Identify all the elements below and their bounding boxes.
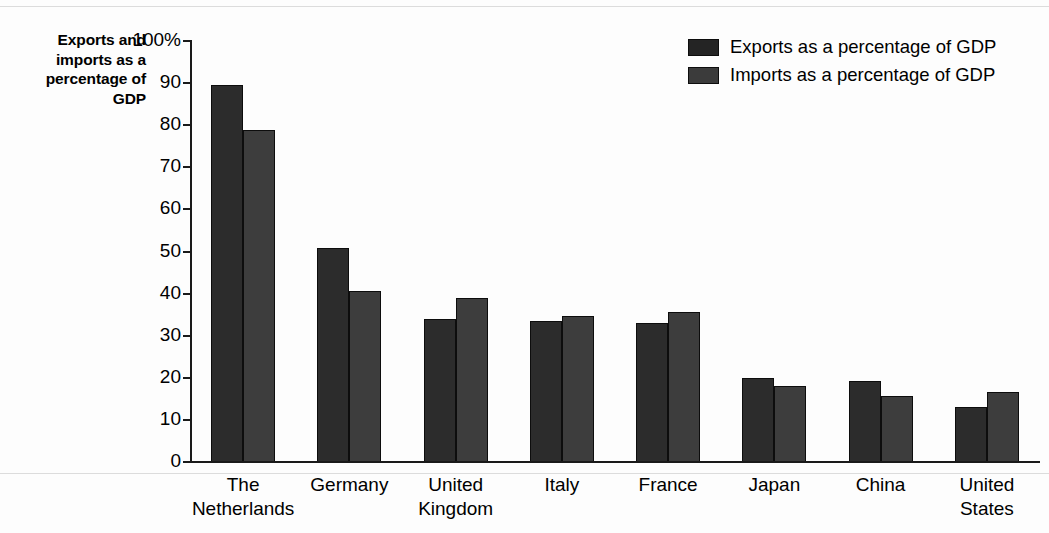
bar-group-inner [934, 40, 1040, 461]
bar-imports[interactable] [349, 291, 381, 461]
bar-imports[interactable] [243, 130, 275, 461]
y-tick-label: 40 [160, 282, 181, 304]
bar-exports[interactable] [742, 378, 774, 461]
bar-imports[interactable] [881, 396, 913, 461]
x-axis-category-label-line: United [403, 473, 509, 497]
x-axis-category-label: Germany [296, 473, 402, 497]
bar-group-inner [403, 40, 509, 461]
bar-group [190, 40, 296, 461]
bar-group-inner [190, 40, 296, 461]
bar-imports[interactable] [456, 298, 488, 461]
bar-group-inner [615, 40, 721, 461]
x-axis-category-label-line: Japan [721, 473, 827, 497]
y-tick-label: 100% [132, 29, 181, 51]
y-tick-label: 60 [160, 197, 181, 219]
bar-group-inner [296, 40, 402, 461]
bar-imports[interactable] [774, 386, 806, 461]
bar-exports[interactable] [211, 85, 243, 461]
bar-group [509, 40, 615, 461]
bar-group-inner [509, 40, 615, 461]
y-tick-label: 20 [160, 366, 181, 388]
bar-exports[interactable] [317, 248, 349, 461]
bar-imports[interactable] [987, 392, 1019, 461]
bar-imports[interactable] [668, 312, 700, 461]
x-axis-category-label-line: United [934, 473, 1040, 497]
bar-group [403, 40, 509, 461]
y-axis-title-line: GDP [18, 89, 146, 109]
bar-group [615, 40, 721, 461]
x-axis-category-label-line: Italy [509, 473, 615, 497]
x-axis-category-label: France [615, 473, 721, 497]
y-axis-title-line: percentage of [18, 69, 146, 89]
x-axis-category-label-line: The [190, 473, 296, 497]
x-axis-category-label: UnitedKingdom [403, 473, 509, 521]
bar-exports[interactable] [636, 323, 668, 461]
y-tick-label: 50 [160, 240, 181, 262]
bar-group [721, 40, 827, 461]
bar-exports[interactable] [424, 319, 456, 461]
bar-group-inner [721, 40, 827, 461]
y-tick-label: 90 [160, 71, 181, 93]
x-axis-category-label-line: Netherlands [190, 497, 296, 521]
bar-exports[interactable] [955, 407, 987, 461]
bar-group [296, 40, 402, 461]
x-axis-category-label: Japan [721, 473, 827, 497]
y-axis-title-line: Exports and [18, 30, 146, 50]
bar-exports[interactable] [530, 321, 562, 461]
y-tick-label: 30 [160, 324, 181, 346]
bar-group [934, 40, 1040, 461]
x-axis-category-label: TheNetherlands [190, 473, 296, 521]
page-scan-line-top [0, 6, 1049, 7]
bar-series-container [190, 40, 1040, 462]
y-tick-label: 10 [160, 408, 181, 430]
bar-exports[interactable] [849, 381, 881, 461]
bar-imports[interactable] [562, 316, 594, 461]
y-axis-title-line: imports as a [18, 50, 146, 70]
y-tick-label: 0 [170, 450, 181, 472]
x-axis-category-label-line: Germany [296, 473, 402, 497]
x-axis-category-labels: TheNetherlandsGermanyUnitedKingdomItalyF… [190, 473, 1040, 531]
bar-group [828, 40, 934, 461]
plot-area: 0102030405060708090100% [190, 40, 1040, 462]
x-axis-category-label: China [828, 473, 934, 497]
x-axis-category-label-line: China [828, 473, 934, 497]
x-axis-category-label: Italy [509, 473, 615, 497]
y-axis-title: Exports andimports as apercentage ofGDP [18, 30, 146, 108]
x-axis-category-label-line: States [934, 497, 1040, 521]
x-axis-category-label: UnitedStates [934, 473, 1040, 521]
chart-figure: Exports andimports as apercentage ofGDP … [0, 0, 1049, 533]
x-axis-category-label-line: France [615, 473, 721, 497]
bar-group-inner [828, 40, 934, 461]
y-tick-label: 80 [160, 113, 181, 135]
y-tick-label: 70 [160, 155, 181, 177]
x-axis-category-label-line: Kingdom [403, 497, 509, 521]
